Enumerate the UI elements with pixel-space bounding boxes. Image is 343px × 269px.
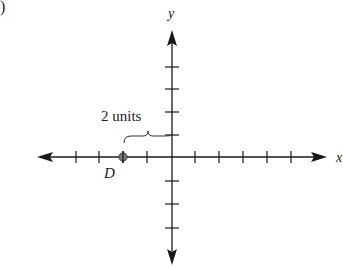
point-d-label: D bbox=[103, 165, 115, 181]
y-axis-label: y bbox=[166, 6, 175, 21]
distance-annotation: 2 units bbox=[101, 108, 142, 124]
part-marker: ) bbox=[0, 0, 5, 16]
two-unit-brace bbox=[124, 131, 171, 143]
y-axis bbox=[165, 30, 179, 265]
x-axis bbox=[37, 151, 327, 163]
coordinate-diagram: ) x y bbox=[0, 0, 343, 269]
x-axis-label: x bbox=[335, 150, 343, 165]
